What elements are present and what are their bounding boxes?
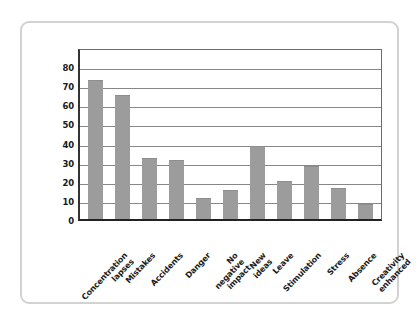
bar-slot (271, 50, 298, 219)
y-axis-tick-label: 20 (52, 178, 74, 188)
y-axis-tick-label: 40 (52, 140, 74, 150)
x-axis-tick-label: Leave (271, 251, 295, 276)
bar[interactable] (304, 166, 319, 220)
y-axis-tick-labels: 01020304050607080 (52, 49, 74, 221)
y-axis-tick-label: 70 (52, 82, 74, 92)
bar-slot (163, 50, 190, 219)
bar-slot (136, 50, 163, 219)
bar[interactable] (142, 158, 157, 219)
bar-slot (109, 50, 136, 219)
plot-area (78, 49, 382, 221)
bar-slot (298, 50, 325, 219)
x-axis-tick-label: New ideas (245, 251, 274, 280)
bar[interactable] (358, 204, 373, 219)
x-axis-tick-label: No negative impact (207, 251, 253, 297)
bar[interactable] (277, 181, 292, 219)
y-axis-tick-label: 50 (52, 120, 74, 130)
y-axis-tick-label: 0 (52, 216, 74, 226)
bar-slot (82, 50, 109, 219)
bar[interactable] (223, 190, 238, 219)
bar-slot (325, 50, 352, 219)
y-axis-tick-label: 30 (52, 159, 74, 169)
bar-series (80, 50, 381, 219)
bar-slot (352, 50, 379, 219)
bar[interactable] (196, 198, 211, 219)
y-axis-tick-label: 80 (52, 63, 74, 73)
bar[interactable] (88, 80, 103, 220)
bar-slot (217, 50, 244, 219)
bar-chart: 01020304050607080 Concentration lapsesMi… (52, 49, 382, 244)
bar[interactable] (250, 146, 265, 219)
chart-card: 01020304050607080 Concentration lapsesMi… (20, 21, 399, 304)
y-axis-tick-label: 10 (52, 197, 74, 207)
bar-slot (190, 50, 217, 219)
y-axis-tick-label: 60 (52, 101, 74, 111)
x-axis-tick-label: Stress (325, 251, 351, 277)
x-axis-tick-labels: Concentration lapsesMistakesAccidentsDan… (108, 249, 412, 327)
bar[interactable] (169, 160, 184, 219)
bar[interactable] (115, 95, 130, 219)
bar[interactable] (331, 188, 346, 219)
bar-slot (244, 50, 271, 219)
